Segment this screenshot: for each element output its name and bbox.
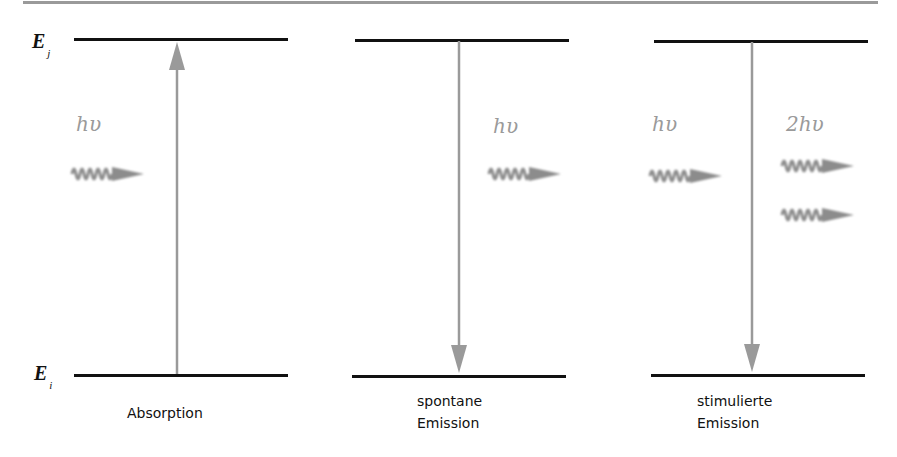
absorption-arrow-up-icon <box>169 42 185 374</box>
spontaneous-emission-caption: spontane Emission <box>417 390 482 434</box>
caption-line: stimulierte <box>697 390 772 412</box>
photon-wave-icon <box>70 161 146 187</box>
transition-arrows <box>0 0 897 457</box>
caption-line: spontane <box>417 390 482 412</box>
photon-wave-icon <box>648 163 724 189</box>
photon-wave-icon <box>487 161 563 187</box>
stimulated-arrow-down-icon <box>744 42 760 372</box>
caption-line: Emission <box>697 412 772 434</box>
stimulated-emission-caption: stimulierte Emission <box>697 390 772 434</box>
spontaneous-arrow-down-icon <box>451 41 467 373</box>
stimulated-incoming-photon-label: hυ <box>652 112 677 136</box>
caption-line: Absorption <box>127 402 203 424</box>
absorption-photon-label: hυ <box>76 112 101 136</box>
photon-wave-icon <box>780 202 856 228</box>
caption-line: Emission <box>417 412 482 434</box>
absorption-caption: Absorption <box>127 402 203 424</box>
stimulated-outgoing-photon-label: 2hυ <box>786 112 824 136</box>
spontaneous-photon-label: hυ <box>493 114 518 138</box>
photon-wave-icon <box>780 153 856 179</box>
